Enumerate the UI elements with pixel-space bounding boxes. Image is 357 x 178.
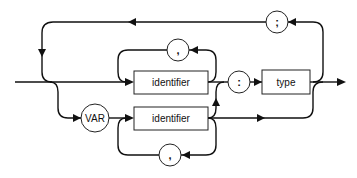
arrow-upper-comma-in	[190, 46, 198, 54]
colon-terminal: :	[228, 71, 250, 93]
comma-label-lower: ,	[168, 149, 171, 161]
var-terminal: VAR	[81, 104, 109, 132]
arrow-up-to-colon	[212, 98, 220, 106]
arrow-into-var	[73, 114, 81, 122]
colon-label: :	[237, 76, 241, 88]
arrow-lower-comma-in	[182, 151, 190, 159]
arrow-into-identifier-lower	[125, 114, 134, 122]
identifier-box-upper: identifier	[134, 71, 208, 94]
type-label: type	[277, 77, 296, 88]
comma-label-upper: ,	[176, 44, 179, 56]
arrow-exit	[337, 78, 346, 86]
comma-terminal-lower: ,	[159, 144, 181, 166]
comma-terminal-upper: ,	[167, 39, 189, 61]
semicolon-label: ;	[275, 16, 279, 28]
identifier-label-lower: identifier	[152, 113, 190, 124]
identifier-label-upper: identifier	[152, 77, 190, 88]
syntax-diagram: ; , identifier : type VAR identifier ,	[0, 0, 357, 178]
type-box: type	[262, 70, 310, 94]
arrow-into-identifier-upper	[125, 78, 134, 86]
arrow-into-type	[254, 78, 262, 86]
var-label: VAR	[85, 113, 105, 124]
semicolon-terminal: ;	[266, 11, 288, 33]
arrow-semicolon-in	[288, 18, 296, 26]
var-branch-line	[50, 82, 81, 118]
arrow-top-left	[128, 18, 136, 26]
arrow-down-left	[38, 49, 46, 57]
arrow-bypass	[257, 114, 265, 122]
identifier-box-lower: identifier	[134, 107, 208, 130]
